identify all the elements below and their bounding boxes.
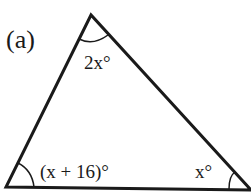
top-angle-arc (79, 35, 108, 42)
bottom-left-angle-arc (18, 163, 34, 187)
triangle-diagram: (a) 2x° (x + 16)° x° (0, 0, 251, 196)
top-angle-label: 2x° (84, 52, 111, 73)
bottom-right-angle-arc (229, 172, 235, 189)
bottom-right-angle-label: x° (195, 161, 212, 182)
figure-label: (a) (6, 25, 35, 54)
bottom-left-angle-label: (x + 16)° (40, 161, 109, 183)
